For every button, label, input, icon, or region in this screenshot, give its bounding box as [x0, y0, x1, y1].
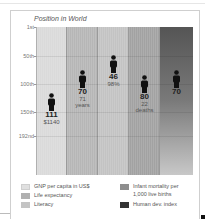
rank-value: 70 [161, 88, 192, 96]
legend-label: Infant mortality per [133, 183, 179, 190]
actual-value: $1140 [36, 119, 67, 125]
corner-mark [201, 215, 205, 219]
person-icon [47, 93, 56, 111]
legend-label-line2: 1,000 live births [133, 191, 172, 198]
person-icon [109, 55, 118, 73]
marker-life-expectancy: 70 71 years [67, 70, 98, 108]
actual-value: 98% [98, 81, 129, 87]
person-icon [78, 70, 87, 88]
legend-swatch [21, 193, 30, 199]
y-tick-1st: 1st [12, 24, 34, 30]
actual-unit: deaths [129, 107, 160, 113]
legend-label: GNP per capita in US$ [34, 183, 90, 190]
marker-human-dev-index: 70 [161, 70, 192, 96]
y-tick-150th: 150th [12, 109, 34, 115]
person-icon [140, 75, 149, 93]
actual-unit: years [67, 102, 98, 108]
legend-swatch [120, 202, 129, 208]
legend-label: Literacy [34, 201, 53, 208]
column-literacy [98, 27, 129, 175]
marker-gnp: 111 $1140 [36, 93, 67, 125]
y-tick-192nd: 192nd [12, 133, 34, 139]
legend-swatch [21, 184, 30, 190]
rank-value: 111 [36, 111, 67, 119]
y-tick-100th: 100th [12, 81, 34, 87]
chart-title: Position in World [34, 15, 87, 22]
column-human-dev-index [160, 27, 193, 175]
legend-swatch [120, 184, 129, 190]
legend-label: Human dev. index [133, 201, 177, 208]
rank-value: 80 [129, 93, 160, 101]
page-rule [0, 213, 10, 214]
y-tick-50th: 50th [12, 53, 34, 59]
rank-value: 70 [67, 88, 98, 96]
person-icon [172, 70, 181, 88]
top-rule [0, 3, 205, 4]
marker-literacy: 46 98% [98, 55, 129, 87]
rank-value: 46 [98, 73, 129, 81]
legend-label: Life expectancy [34, 192, 72, 199]
legend-swatch [21, 202, 30, 208]
marker-infant-mortality: 80 22 deaths [129, 75, 160, 113]
gridline [36, 136, 193, 137]
